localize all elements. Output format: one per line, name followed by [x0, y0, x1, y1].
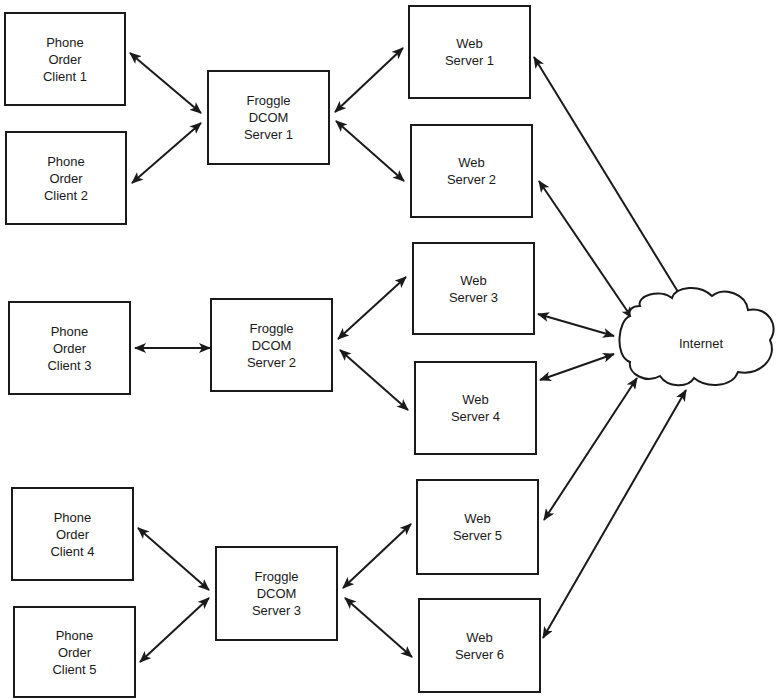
node-client3: Phone Order Client 3	[8, 301, 131, 395]
node-label: Phone Order Client 4	[50, 509, 94, 560]
node-dcom3: Froggle DCOM Server 3	[215, 546, 338, 641]
node-label: Froggle DCOM Server 2	[247, 320, 296, 371]
node-client5: Phone Order Client 5	[13, 606, 136, 698]
internet-cloud-label: Internet	[656, 336, 746, 352]
node-label: Phone Order Client 2	[44, 153, 88, 204]
node-web5: Web Server 5	[416, 479, 539, 575]
node-label: Phone Order Client 3	[47, 323, 91, 374]
node-label: Web Server 1	[445, 35, 494, 69]
node-web4: Web Server 4	[414, 361, 537, 455]
node-label: Froggle DCOM Server 3	[252, 568, 301, 619]
node-dcom2: Froggle DCOM Server 2	[210, 298, 333, 392]
node-label: Phone Order Client 1	[43, 34, 87, 85]
node-label: Web Server 5	[453, 510, 502, 544]
arrow-dcom1-web2	[336, 121, 404, 181]
node-web2: Web Server 2	[410, 124, 533, 218]
node-label: Web Server 6	[455, 629, 504, 663]
arrow-dcom2-web4	[340, 350, 408, 410]
node-web3: Web Server 3	[412, 242, 535, 335]
arrow-web1-internet	[534, 57, 683, 300]
arrow-dcom3-web5	[343, 524, 411, 588]
node-client4: Phone Order Client 4	[11, 487, 134, 581]
arrow-client2-dcom1	[132, 123, 201, 183]
node-label: Web Server 4	[451, 391, 500, 425]
arrow-dcom3-web6	[345, 598, 412, 657]
arrow-web3-internet	[538, 314, 614, 336]
arrow-dcom1-web1	[335, 48, 403, 112]
node-label: Froggle DCOM Server 1	[244, 92, 293, 143]
arrow-web6-internet	[543, 390, 686, 638]
arrow-client1-dcom1	[130, 53, 201, 113]
node-label: Phone Order Client 5	[52, 627, 96, 678]
arrow-web5-internet	[544, 378, 637, 520]
arrow-web4-internet	[540, 354, 614, 380]
arrow-web2-internet	[539, 181, 632, 318]
node-dcom1: Froggle DCOM Server 1	[207, 70, 330, 165]
arrow-client5-dcom3	[140, 598, 209, 662]
node-label: Web Server 3	[449, 272, 498, 306]
node-client2: Phone Order Client 2	[5, 131, 127, 225]
node-client1: Phone Order Client 1	[4, 12, 126, 106]
node-web6: Web Server 6	[418, 598, 541, 693]
node-web1: Web Server 1	[408, 5, 531, 99]
network-diagram: Phone Order Client 1Phone Order Client 2…	[0, 0, 778, 700]
arrow-dcom2-web3	[338, 277, 406, 339]
arrow-client4-dcom3	[138, 528, 209, 590]
node-label: Web Server 2	[447, 154, 496, 188]
